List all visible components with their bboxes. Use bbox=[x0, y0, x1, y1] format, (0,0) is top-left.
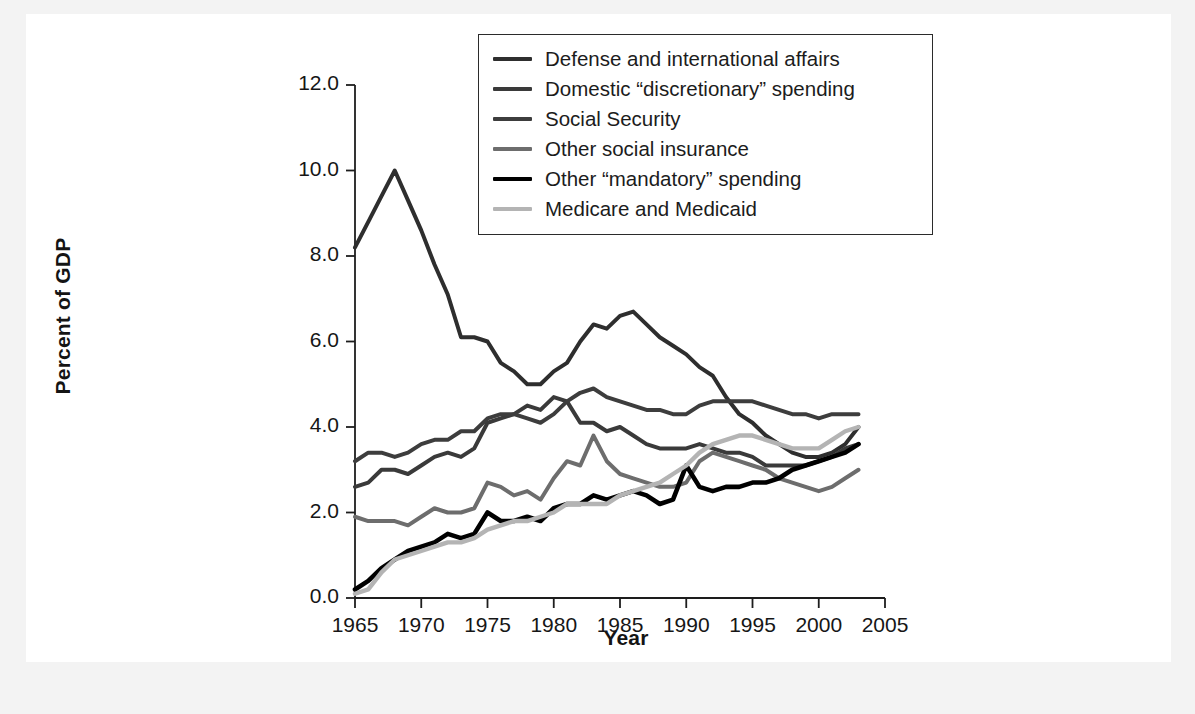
y-tick-label: 12.0 bbox=[275, 71, 339, 95]
x-tick-label: 1975 bbox=[453, 613, 523, 637]
y-tick-label: 2.0 bbox=[275, 499, 339, 523]
chart-figure: Percent of GDP Year 0.02.04.06.08.010.01… bbox=[26, 14, 1171, 662]
legend-item[interactable]: Domestic “discretionary” spending bbox=[493, 74, 920, 104]
series-line bbox=[355, 389, 859, 462]
legend-swatch-icon bbox=[493, 57, 532, 61]
legend-item[interactable]: Other “mandatory” spending bbox=[493, 164, 920, 194]
legend-item[interactable]: Medicare and Medicaid bbox=[493, 194, 920, 224]
legend-item[interactable]: Social Security bbox=[493, 104, 920, 134]
x-tick-label: 1970 bbox=[386, 613, 456, 637]
y-tick-label: 6.0 bbox=[275, 328, 339, 352]
figure-panel: Percent of GDP Year 0.02.04.06.08.010.01… bbox=[26, 14, 1171, 662]
legend-label: Other social insurance bbox=[545, 137, 749, 161]
x-tick-label: 2000 bbox=[784, 613, 854, 637]
legend-label: Other “mandatory” spending bbox=[545, 167, 801, 191]
legend-item[interactable]: Defense and international affairs bbox=[493, 44, 920, 74]
legend-label: Medicare and Medicaid bbox=[545, 197, 757, 221]
legend-item[interactable]: Other social insurance bbox=[493, 134, 920, 164]
legend-label: Defense and international affairs bbox=[545, 47, 840, 71]
y-tick-label: 10.0 bbox=[275, 157, 339, 181]
x-tick-label: 1985 bbox=[585, 613, 655, 637]
y-tick-label: 4.0 bbox=[275, 413, 339, 437]
page-background: Percent of GDP Year 0.02.04.06.08.010.01… bbox=[0, 0, 1195, 714]
y-tick-label: 0.0 bbox=[275, 584, 339, 608]
legend-label: Domestic “discretionary” spending bbox=[545, 77, 855, 101]
legend-swatch-icon bbox=[493, 177, 532, 182]
legend-swatch-icon bbox=[493, 207, 532, 211]
x-tick-label: 2005 bbox=[850, 613, 920, 637]
y-tick-label: 8.0 bbox=[275, 242, 339, 266]
legend-swatch-icon bbox=[493, 117, 532, 121]
x-tick-label: 1980 bbox=[519, 613, 589, 637]
legend-label: Social Security bbox=[545, 107, 681, 131]
x-tick-label: 1995 bbox=[718, 613, 788, 637]
x-tick-label: 1990 bbox=[651, 613, 721, 637]
legend-swatch-icon bbox=[493, 87, 532, 91]
legend-swatch-icon bbox=[493, 147, 532, 151]
x-tick-label: 1965 bbox=[320, 613, 390, 637]
chart-legend: Defense and international affairsDomesti… bbox=[478, 34, 933, 235]
